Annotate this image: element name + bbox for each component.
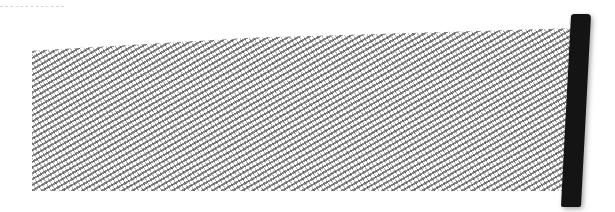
shaded-rectangle [32, 28, 580, 191]
dashed-guide-line [0, 6, 64, 7]
